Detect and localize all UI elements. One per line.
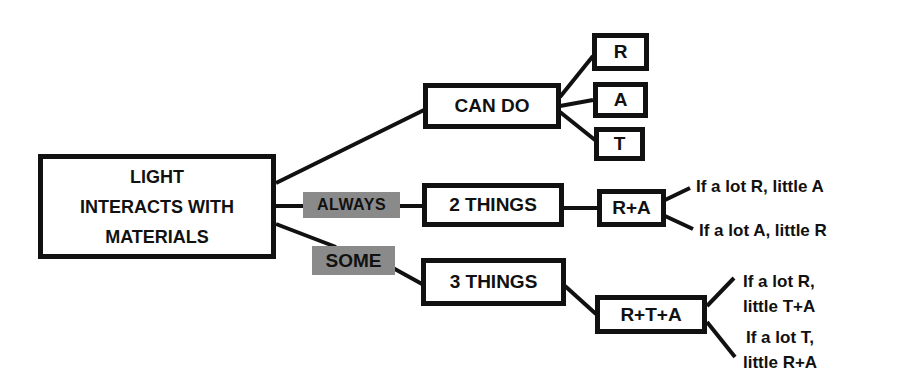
node-can-do-text: CAN DO (455, 95, 530, 117)
node-a-text: A (614, 89, 628, 111)
node-two-things-text: 2 THINGS (449, 194, 537, 216)
note-lot-r-little-a: If a lot R, little A (696, 176, 824, 198)
root-line-3: MATERIALS (105, 222, 209, 252)
edge-label-always: ALWAYS (303, 192, 400, 218)
link-some-three-things (393, 268, 422, 284)
link-cando-r (560, 56, 593, 97)
root-node: LIGHT INTERACTS WITH MATERIALS (38, 154, 276, 259)
note-lot-r-little-ta: If a lot R, little T+A (743, 269, 815, 319)
link-cando-t (560, 112, 595, 140)
root-line-1: LIGHT (130, 162, 184, 192)
node-r-text: R (614, 41, 628, 63)
node-r-plus-a: R+A (597, 189, 666, 227)
node-r-plus-t-plus-a: R+T+A (595, 295, 707, 334)
link-ra-note2 (665, 216, 693, 229)
edge-label-always-text: ALWAYS (317, 196, 386, 214)
node-two-things: 2 THINGS (422, 183, 564, 227)
node-a: A (593, 82, 648, 118)
note-lot-a-little-r: If a lot A, little R (699, 220, 827, 242)
note-lot-t-little-ra-line-2: little R+A (743, 350, 817, 375)
node-three-things: 3 THINGS (421, 258, 566, 306)
note-lot-r-little-ta-line-2: little T+A (743, 294, 815, 319)
note-lot-r-little-a-text: If a lot R, little A (696, 177, 824, 196)
link-rta-note2 (707, 322, 735, 357)
edge-label-some-text: SOME (326, 250, 382, 272)
note-lot-t-little-ra: If a lot T, little R+A (743, 325, 817, 375)
root-line-2: INTERACTS WITH (80, 192, 234, 222)
node-r: R (592, 33, 649, 71)
edge-label-some: SOME (312, 246, 395, 275)
node-can-do: CAN DO (423, 83, 561, 129)
link-root-some (276, 224, 336, 247)
link-root-cando (276, 110, 424, 183)
note-lot-r-little-ta-line-1: If a lot R, (743, 269, 815, 294)
note-lot-t-little-ra-line-1: If a lot T, (743, 325, 817, 350)
link-ra-note1 (665, 188, 690, 200)
node-r-plus-t-plus-a-text: R+T+A (620, 304, 681, 326)
node-t: T (594, 127, 645, 161)
note-lot-a-little-r-text: If a lot A, little R (699, 221, 827, 240)
link-three-things-rta (565, 286, 596, 314)
node-t-text: T (614, 133, 626, 155)
link-cando-a (560, 100, 593, 106)
node-r-plus-a-text: R+A (612, 197, 651, 219)
link-rta-note1 (707, 278, 734, 306)
node-three-things-text: 3 THINGS (450, 271, 538, 293)
